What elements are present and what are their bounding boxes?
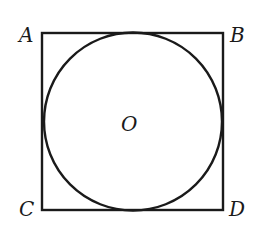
- label-a: A: [17, 23, 33, 47]
- label-o-center: O: [121, 112, 137, 136]
- label-b: B: [229, 23, 245, 47]
- label-c: C: [19, 197, 34, 221]
- label-d: D: [228, 197, 245, 221]
- diagram-canvas: A B C D O: [0, 0, 265, 235]
